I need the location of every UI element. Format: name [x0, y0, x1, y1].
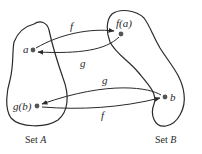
point-f-of-a	[119, 32, 124, 37]
label-a: a	[23, 43, 29, 55]
arrow-label-f-bottom: f	[101, 109, 106, 121]
set-a-label: Set A	[25, 134, 47, 145]
arrow-f-gb-to-b	[42, 98, 160, 108]
arrow-f-a-to-fa	[36, 30, 114, 48]
function-mapping-diagram: a f(a) g(b) b f g g f Set A Set B	[0, 0, 202, 154]
arrow-label-f-top: f	[70, 20, 75, 32]
point-a	[31, 48, 36, 53]
arrow-g-fa-to-a	[38, 37, 119, 52]
label-g-of-b: g(b)	[13, 100, 32, 113]
label-b: b	[170, 91, 176, 103]
point-g-of-b	[35, 104, 40, 109]
arrow-label-g-bottom: g	[102, 74, 108, 86]
point-b	[163, 95, 168, 100]
arrow-label-g-top: g	[80, 57, 86, 69]
set-b-label: Set B	[155, 134, 176, 145]
label-f-of-a: f(a)	[116, 17, 132, 30]
